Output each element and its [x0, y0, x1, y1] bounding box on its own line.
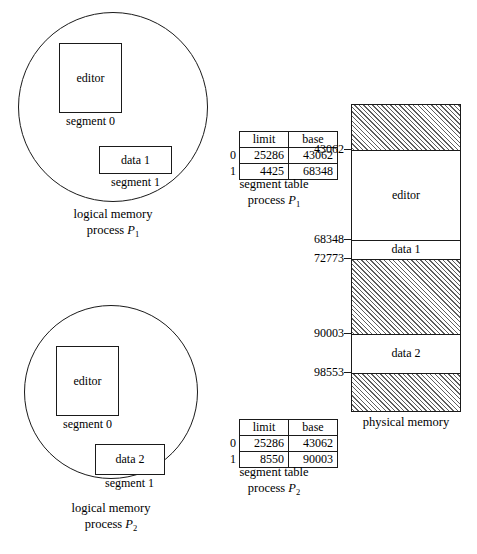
- logical-memory-caption-line1-p1: logical memory: [43, 207, 183, 223]
- column-header-limit: limit: [240, 132, 289, 148]
- physical-band-data1: data 1: [352, 240, 460, 259]
- address-tick-43062: [344, 149, 352, 150]
- column-header-base: base: [289, 420, 338, 436]
- segment-table-caption-p2: segment table process P2: [204, 465, 344, 496]
- table-row: 0 25286 43062: [222, 436, 338, 452]
- physical-band-free-bottom: [352, 373, 460, 411]
- logical-segment-box-editor-p1: editor: [59, 43, 122, 113]
- physical-boundary-68348: [352, 240, 460, 241]
- segment-table-grid-p2: limit base 0 25286 43062 1 8550 90003: [222, 419, 338, 468]
- address-label-43062: 43062: [297, 142, 344, 157]
- physical-boundary-98553: [352, 373, 460, 374]
- logical-memory-caption-line2-p2: process P2: [41, 517, 181, 533]
- column-header-limit: limit: [240, 420, 289, 436]
- address-label-72773: 72773: [297, 251, 344, 266]
- physical-band-free-middle: [352, 259, 460, 334]
- logical-memory-caption-line2-p1: process P1: [43, 223, 183, 239]
- address-label-98553: 98553: [297, 365, 344, 380]
- physical-boundary-43062: [352, 150, 460, 151]
- physical-band-data2: data 2: [352, 334, 460, 373]
- table-corner-cell: [222, 420, 240, 436]
- physical-band-label-data2: data 2: [392, 346, 421, 361]
- segment-table-caption-line2-p2: process P2: [204, 481, 344, 497]
- logical-memory-caption-p1: logical memory process P1: [43, 207, 183, 238]
- address-tick-98553: [344, 372, 352, 373]
- logical-segment-box-editor-p2: editor: [56, 346, 119, 416]
- physical-memory-block: editor data 1 data 2: [351, 104, 461, 412]
- row-index: 0: [222, 436, 240, 452]
- logical-segment-caption-0-p2: segment 0: [46, 417, 129, 432]
- cell-limit: 25286: [240, 436, 289, 452]
- logical-segment-caption-1-p2: segment 1: [88, 476, 171, 491]
- logical-memory-caption-p2: logical memory process P2: [41, 501, 181, 532]
- logical-segment-caption-0-p1: segment 0: [49, 114, 132, 129]
- address-tick-90003: [344, 333, 352, 334]
- logical-segment-box-data1-p1: data 1: [99, 146, 172, 174]
- address-label-90003: 90003: [297, 326, 344, 341]
- logical-segment-label-data1-p1: data 1: [121, 153, 150, 168]
- address-label-68348: 68348: [297, 232, 344, 247]
- logical-segment-label-editor-p1: editor: [77, 71, 105, 86]
- segment-table-caption-line1-p1: segment table: [204, 177, 344, 193]
- physical-memory-caption: physical memory: [351, 415, 461, 430]
- physical-boundary-72773: [352, 259, 460, 260]
- segment-table-caption-line2-p1: process P1: [204, 193, 344, 209]
- address-tick-68348: [344, 239, 352, 240]
- table-header-row: limit base: [222, 420, 338, 436]
- physical-boundary-90003: [352, 334, 460, 335]
- row-index: 0: [222, 148, 240, 164]
- segment-table-caption-line1-p2: segment table: [204, 465, 344, 481]
- address-tick-72773: [344, 258, 352, 259]
- cell-base: 43062: [289, 436, 338, 452]
- logical-segment-label-editor-p2: editor: [74, 374, 102, 389]
- physical-band-label-editor: editor: [392, 188, 420, 203]
- logical-segment-box-data2-p2: data 2: [95, 444, 165, 475]
- physical-band-free-top: [352, 105, 460, 150]
- table-corner-cell: [222, 132, 240, 148]
- logical-segment-label-data2-p2: data 2: [116, 452, 145, 467]
- cell-limit: 25286: [240, 148, 289, 164]
- physical-band-label-data1: data 1: [392, 242, 421, 257]
- logical-memory-caption-line1-p2: logical memory: [41, 501, 181, 517]
- logical-segment-caption-1-p1: segment 1: [94, 175, 177, 190]
- segment-table-caption-p1: segment table process P1: [204, 177, 344, 208]
- physical-band-editor: editor: [352, 150, 460, 240]
- segment-table-p2: limit base 0 25286 43062 1 8550 90003: [222, 419, 338, 468]
